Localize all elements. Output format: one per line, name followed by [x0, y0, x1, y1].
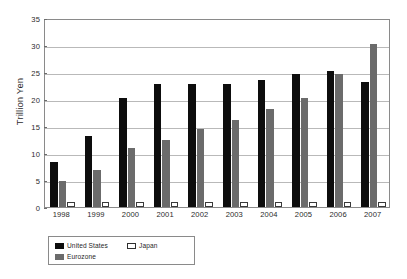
bar-united-states-2002 — [188, 84, 196, 207]
y-tick-mark — [44, 181, 47, 182]
bar-group — [50, 20, 75, 207]
bar-group — [292, 20, 317, 207]
y-tick-label: 20 — [6, 96, 40, 105]
bar-group — [361, 20, 386, 207]
y-tick-label: 25 — [6, 69, 40, 78]
bar-group — [327, 20, 352, 207]
legend-label-eurozone: Eurozone — [67, 253, 96, 260]
chart-legend: United States Eurozone Japan — [48, 236, 195, 265]
bar-united-states-2004 — [258, 80, 266, 207]
black-square-icon — [55, 243, 64, 249]
bar-japan-2006 — [344, 202, 352, 207]
bar-group — [85, 20, 110, 207]
bar-japan-1999 — [102, 202, 110, 207]
bar-group — [223, 20, 248, 207]
x-axis-tick-labels: 1998199920002001200220032004200520062007 — [44, 210, 390, 224]
bar-eurozone-1998 — [59, 181, 67, 207]
y-tick-mark — [44, 154, 47, 155]
y-tick-mark — [44, 46, 47, 47]
bar-japan-1998 — [67, 202, 75, 207]
bar-group — [188, 20, 213, 207]
legend-entry-japan: Japan — [127, 242, 157, 249]
bar-eurozone-2003 — [232, 120, 240, 207]
y-tick-label: 10 — [6, 150, 40, 159]
bar-united-states-1998 — [50, 162, 58, 207]
bar-eurozone-2005 — [301, 98, 309, 207]
bar-eurozone-2001 — [162, 140, 170, 208]
bar-japan-2005 — [309, 202, 317, 207]
y-tick-mark — [44, 73, 47, 74]
x-tick-label: 2000 — [122, 210, 139, 219]
y-tick-mark — [44, 127, 47, 128]
x-tick-label: 2003 — [226, 210, 243, 219]
bar-japan-2002 — [205, 202, 213, 207]
y-tick-label: 0 — [6, 204, 40, 213]
bar-japan-2003 — [240, 202, 248, 207]
bar-eurozone-2002 — [197, 129, 205, 207]
bar-united-states-2005 — [292, 74, 300, 207]
x-tick-label: 2005 — [295, 210, 312, 219]
bars-layer — [45, 20, 389, 207]
legend-label-japan: Japan — [139, 242, 157, 249]
bar-united-states-2000 — [119, 98, 127, 207]
white-square-icon — [127, 243, 136, 249]
y-tick-mark — [44, 19, 47, 20]
bar-eurozone-2007 — [370, 44, 378, 207]
bar-japan-2000 — [136, 202, 144, 207]
bar-chart-figure: Trillion Yen 05101520253035 199819992000… — [0, 0, 407, 279]
y-tick-label: 30 — [6, 42, 40, 51]
bar-united-states-2001 — [154, 84, 162, 207]
legend-entry-united-states: United States — [55, 242, 108, 249]
y-tick-mark — [44, 100, 47, 101]
legend-entry-eurozone: Eurozone — [55, 253, 96, 260]
bar-japan-2007 — [378, 202, 386, 207]
gray-square-icon — [55, 254, 64, 260]
bar-group — [119, 20, 144, 207]
bar-united-states-2006 — [327, 71, 335, 207]
bar-group — [154, 20, 179, 207]
y-tick-label: 5 — [6, 177, 40, 186]
x-tick-label: 1998 — [53, 210, 70, 219]
y-axis-tick-labels: 05101520253035 — [0, 19, 40, 208]
x-tick-label: 2002 — [191, 210, 208, 219]
x-tick-label: 2006 — [329, 210, 346, 219]
x-tick-label: 1999 — [87, 210, 104, 219]
bar-united-states-2003 — [223, 84, 231, 207]
x-tick-label: 2001 — [156, 210, 173, 219]
bar-eurozone-1999 — [93, 170, 101, 207]
bar-group — [258, 20, 283, 207]
y-tick-label: 15 — [6, 123, 40, 132]
x-tick-label: 2007 — [364, 210, 381, 219]
y-tick-mark — [44, 208, 47, 209]
bar-eurozone-2004 — [266, 109, 274, 207]
bar-united-states-2007 — [361, 82, 369, 207]
bar-japan-2004 — [275, 202, 283, 207]
y-tick-label: 35 — [6, 15, 40, 24]
bar-japan-2001 — [171, 202, 179, 207]
legend-label-united-states: United States — [67, 242, 108, 249]
plot-area — [44, 19, 390, 208]
bar-eurozone-2000 — [128, 148, 136, 207]
bar-eurozone-2006 — [335, 74, 343, 207]
x-tick-label: 2004 — [260, 210, 277, 219]
bar-united-states-1999 — [85, 136, 93, 207]
